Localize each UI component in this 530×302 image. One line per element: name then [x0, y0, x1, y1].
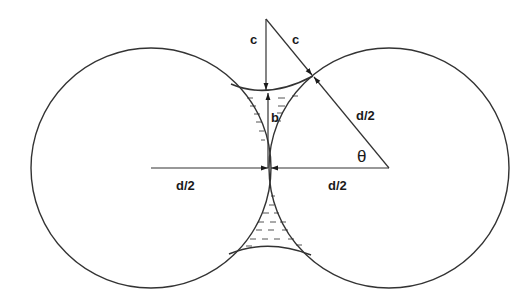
label-c-vertical: c [250, 32, 257, 47]
label-d2-diagonal: d/2 [356, 108, 375, 123]
c-diagonal-arrow [266, 19, 312, 75]
label-theta: θ [357, 147, 366, 166]
two-sphere-liquid-bridge-diagram: c c b d/2 θ d/2 d/2 [0, 0, 530, 302]
label-b: b [271, 110, 279, 125]
label-d2-right: d/2 [328, 178, 347, 193]
label-d2-left: d/2 [176, 178, 195, 193]
d2-diagonal-arrow [314, 77, 389, 168]
label-c-diagonal: c [292, 32, 299, 47]
